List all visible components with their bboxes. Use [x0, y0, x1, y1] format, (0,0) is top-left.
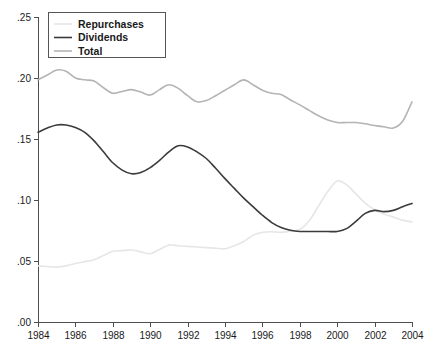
y-tick-label: .05: [17, 256, 31, 267]
line-chart: .00.05.10.15.20.25 198419861988199019921…: [0, 0, 431, 351]
x-tick-label: 2000: [326, 330, 349, 341]
legend-label-dividends: Dividends: [78, 31, 128, 43]
x-tick-label: 1990: [139, 330, 162, 341]
x-tick-label: 2004: [401, 330, 424, 341]
legend-label-repurchases: Repurchases: [78, 18, 144, 30]
y-tick-label: .00: [17, 317, 31, 328]
chart-figure: .00.05.10.15.20.25 198419861988199019921…: [0, 0, 431, 351]
y-axis: .00.05.10.15.20.25: [17, 12, 38, 328]
series-line-repurchases: [38, 181, 412, 267]
x-axis: 1984198619881990199219941996199820002002…: [27, 322, 424, 341]
x-tick-label: 2002: [364, 330, 387, 341]
y-tick-label: .20: [17, 73, 31, 84]
chart-legend: RepurchasesDividendsTotal: [49, 13, 166, 58]
x-tick-label: 1986: [64, 330, 87, 341]
x-tick-label: 1996: [251, 330, 274, 341]
y-tick-label: .15: [17, 134, 31, 145]
x-tick-label: 1998: [289, 330, 312, 341]
y-tick-label: .25: [17, 12, 31, 23]
x-tick-label: 1988: [102, 330, 125, 341]
series-line-total: [38, 70, 412, 128]
legend-label-total: Total: [78, 45, 102, 57]
x-tick-label: 1984: [27, 330, 50, 341]
x-tick-label: 1994: [214, 330, 237, 341]
y-tick-label: .10: [17, 195, 31, 206]
x-tick-label: 1992: [177, 330, 200, 341]
series-layer: [38, 70, 412, 267]
series-line-dividends: [38, 125, 412, 232]
